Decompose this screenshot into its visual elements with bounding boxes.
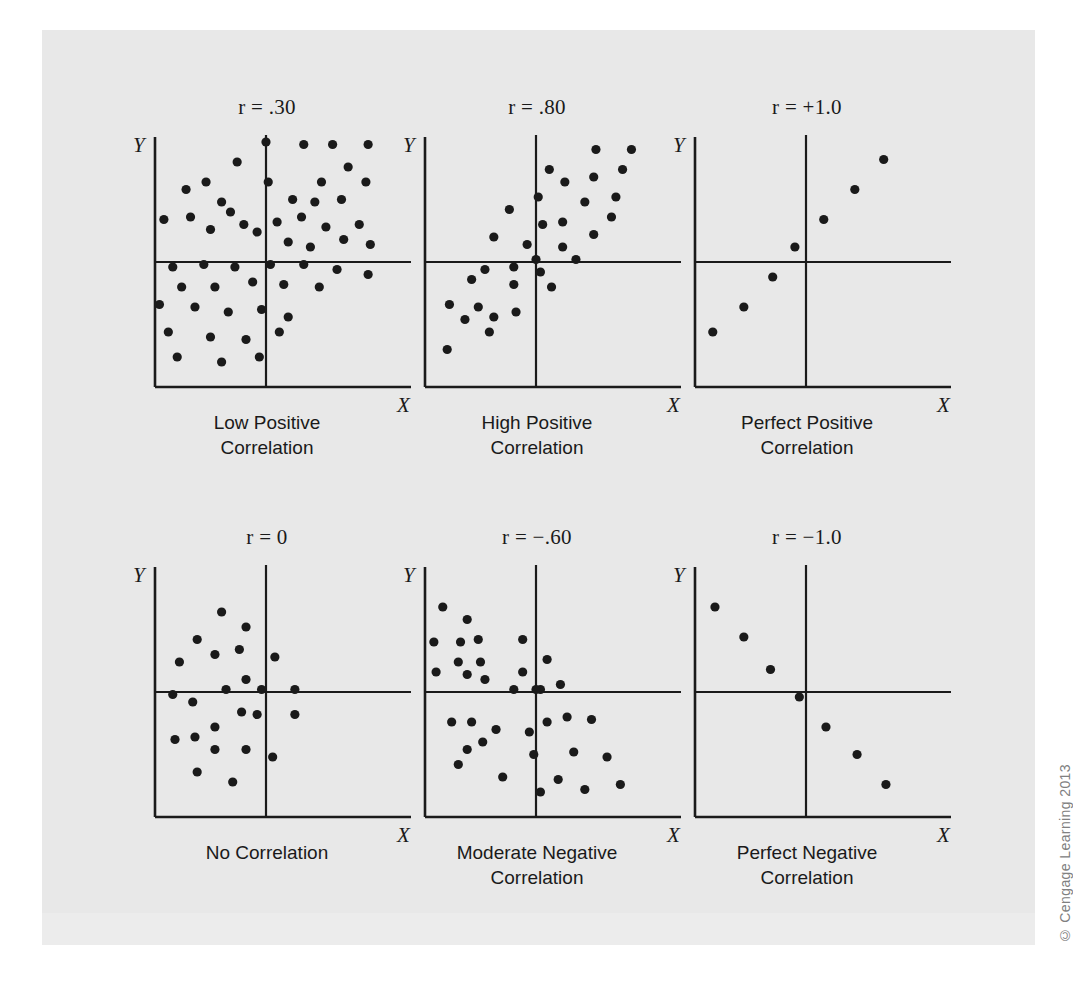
data-point <box>447 717 456 726</box>
data-point <box>217 357 226 366</box>
scatter-svg-perfect-positive <box>657 127 957 397</box>
data-point <box>438 602 447 611</box>
data-point <box>587 715 596 724</box>
data-point <box>210 282 219 291</box>
data-point <box>525 727 534 736</box>
data-point <box>509 280 518 289</box>
data-point <box>290 710 299 719</box>
data-point <box>505 205 514 214</box>
panel-title-moderate-negative: r = −.60 <box>387 525 687 550</box>
data-point <box>257 305 266 314</box>
data-point <box>241 335 250 344</box>
data-point <box>321 222 330 231</box>
data-point <box>233 157 242 166</box>
panel-caption-moderate-negative: Moderate NegativeCorrelation <box>387 840 687 890</box>
data-point <box>257 685 266 694</box>
data-point <box>155 300 164 309</box>
data-point <box>239 220 248 229</box>
data-point <box>616 780 625 789</box>
data-point <box>364 140 373 149</box>
data-point <box>241 745 250 754</box>
data-point <box>297 212 306 221</box>
data-point <box>708 327 717 336</box>
data-point <box>445 300 454 309</box>
panel-caption-perfect-negative: Perfect NegativeCorrelation <box>657 840 957 890</box>
data-point <box>602 752 611 761</box>
data-point <box>611 192 620 201</box>
data-point <box>474 302 483 311</box>
caption-line-1: Perfect Negative <box>657 840 957 865</box>
data-point <box>193 635 202 644</box>
data-point <box>230 262 239 271</box>
data-point <box>217 197 226 206</box>
data-point <box>275 327 284 336</box>
data-point <box>361 177 370 186</box>
data-point <box>463 615 472 624</box>
data-point <box>355 220 364 229</box>
data-point <box>554 775 563 784</box>
y-axis-label-perfect-positive: Y <box>673 133 685 158</box>
data-point <box>270 652 279 661</box>
data-point <box>547 282 556 291</box>
data-point <box>266 260 275 269</box>
data-point <box>328 140 337 149</box>
data-point <box>443 345 452 354</box>
data-point <box>491 725 500 734</box>
data-point <box>476 657 485 666</box>
plot-area-low-positive: YX <box>117 127 417 397</box>
data-point <box>264 177 273 186</box>
data-point <box>580 785 589 794</box>
data-point <box>241 622 250 631</box>
data-point <box>562 712 571 721</box>
data-point <box>710 602 719 611</box>
data-point <box>467 275 476 284</box>
data-point <box>518 667 527 676</box>
data-point <box>489 232 498 241</box>
y-axis-label-no-correlation: Y <box>133 563 145 588</box>
data-point <box>332 265 341 274</box>
data-point <box>511 307 520 316</box>
data-point <box>237 707 246 716</box>
data-point <box>463 745 472 754</box>
caption-line-2: Correlation <box>387 435 687 460</box>
scatter-svg-high-positive <box>387 127 687 397</box>
data-point <box>226 207 235 216</box>
data-point <box>310 197 319 206</box>
caption-line-2: Correlation <box>657 435 957 460</box>
caption-line-2: Correlation <box>117 435 417 460</box>
data-point <box>538 220 547 229</box>
data-point <box>467 717 476 726</box>
data-point <box>821 722 830 731</box>
caption-line-1: No Correlation <box>117 840 417 865</box>
data-point <box>556 680 565 689</box>
data-point <box>224 307 233 316</box>
panel-title-perfect-negative: r = −1.0 <box>657 525 957 550</box>
data-point <box>545 165 554 174</box>
data-point <box>790 242 799 251</box>
data-point <box>206 225 215 234</box>
data-point <box>210 745 219 754</box>
data-point <box>460 315 469 324</box>
data-point <box>241 675 250 684</box>
data-point <box>173 352 182 361</box>
data-point <box>181 185 190 194</box>
panel-title-perfect-positive: r = +1.0 <box>657 95 957 120</box>
data-point <box>221 685 230 694</box>
plot-area-perfect-positive: YX <box>657 127 957 397</box>
data-point <box>432 667 441 676</box>
data-point <box>489 312 498 321</box>
data-point <box>315 282 324 291</box>
caption-line-2: Correlation <box>387 865 687 890</box>
data-point <box>474 635 483 644</box>
caption-line-1: High Positive <box>387 410 687 435</box>
data-point <box>186 212 195 221</box>
data-point <box>429 637 438 646</box>
data-point <box>235 645 244 654</box>
plot-area-moderate-negative: YX <box>387 557 687 827</box>
data-point <box>337 195 346 204</box>
scatterplot-grid: r = .30YXLow PositiveCorrelationr = .80Y… <box>42 30 1035 945</box>
data-point <box>536 267 545 276</box>
data-point <box>190 302 199 311</box>
data-point <box>509 685 518 694</box>
data-point <box>339 235 348 244</box>
